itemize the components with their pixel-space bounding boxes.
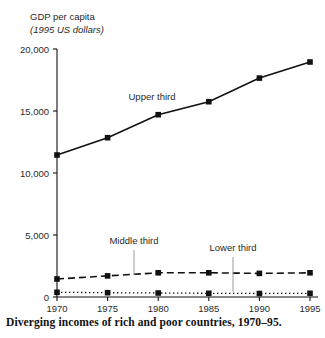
series-marker [257,75,263,81]
y-axis-tick-label: 0 [44,292,49,303]
series-marker [257,291,263,297]
series-marker [307,59,313,65]
x-axis-tick-label: 1980 [148,303,169,314]
series-marker [307,291,313,297]
series-line-0 [57,62,310,155]
annotation-middle-third: Middle third [109,235,158,246]
series-marker [206,291,212,297]
series-line-2 [57,292,310,293]
x-axis-tick-label: 1985 [198,303,219,314]
series-marker [105,273,111,279]
annotation-lower-third: Lower third [210,242,257,253]
series-marker [257,271,263,277]
series-marker [155,290,161,296]
series-line-1 [57,273,310,279]
series-marker [105,135,111,141]
x-axis-tick-label: 1970 [46,303,67,314]
series-marker [54,290,60,296]
chart-figure: GDP per capita (1995 US dollars) 05,0001… [0,0,325,338]
y-axis-tick-label: 15,000 [20,106,49,117]
series-marker [155,270,161,276]
x-axis-tick-label: 1975 [97,303,118,314]
line-chart-plot: 05,00010,00015,00020,0001970197519801985… [0,0,325,316]
series-marker [54,276,60,282]
y-axis-tick-label: 20,000 [20,44,49,55]
series-marker [54,152,60,158]
annotation-upper-third: Upper third [129,91,176,102]
series-marker [307,270,313,276]
y-axis-tick-label: 5,000 [25,230,49,241]
x-axis-tick-label: 1995 [299,303,320,314]
series-marker [206,270,212,276]
figure-caption: Diverging incomes of rich and poor count… [6,316,282,328]
x-axis-tick-label: 1990 [249,303,270,314]
y-axis-tick-label: 10,000 [20,168,49,179]
series-marker [105,290,111,296]
series-marker [155,112,161,118]
series-marker [206,99,212,105]
